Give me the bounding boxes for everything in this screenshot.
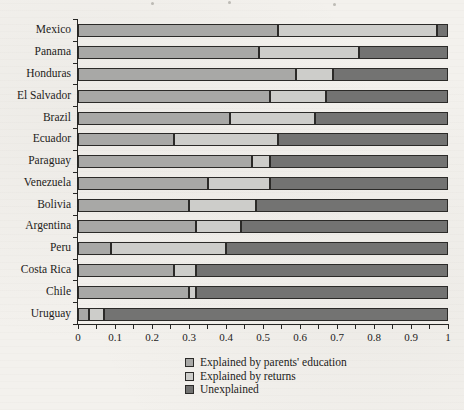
y-axis-tick: [73, 63, 78, 64]
bar-row: [78, 46, 448, 59]
x-axis-tick: [78, 325, 79, 329]
bar-segment-unexplained: [333, 68, 448, 81]
bar-segment-parents-education: [78, 199, 189, 212]
y-axis-tick: [73, 280, 78, 281]
x-axis-tick-label: 0.5: [256, 331, 270, 344]
x-axis-tick: [96, 325, 97, 329]
bar-segment-returns: [89, 308, 104, 321]
x-axis-tick: [300, 325, 301, 329]
category-label: Bolivia: [0, 198, 71, 211]
bar-segment-returns: [174, 133, 278, 146]
x-axis-tick: [115, 325, 116, 329]
bar-segment-returns: [196, 220, 240, 233]
bar-segment-parents-education: [78, 90, 270, 103]
y-axis-tick: [73, 302, 78, 303]
bar-segment-parents-education: [78, 68, 296, 81]
x-axis-tick: [392, 325, 393, 329]
x-axis-tick: [226, 325, 227, 329]
x-axis-tick-label: 1: [445, 331, 451, 344]
bar-segment-returns: [189, 286, 196, 299]
x-axis-tick: [374, 325, 375, 329]
bar-segment-returns: [174, 264, 196, 277]
x-axis-tick: [411, 325, 412, 329]
x-axis-tick-label: 0.9: [404, 331, 418, 344]
x-axis-tick: [337, 325, 338, 329]
legend-item-parents-education: Explained by parents' education: [185, 356, 347, 370]
category-label: Honduras: [0, 67, 71, 80]
bar-segment-unexplained: [241, 220, 448, 233]
stacked-bar-chart: MexicoPanamaHondurasEl SalvadorBrazilEcu…: [0, 0, 464, 410]
legend-swatch-returns: [185, 372, 194, 381]
bar-segment-unexplained: [270, 177, 448, 190]
bar-segment-returns: [252, 155, 271, 168]
y-axis-tick: [73, 193, 78, 194]
bar-segment-parents-education: [78, 220, 196, 233]
x-axis-tick-label: 0.2: [145, 331, 159, 344]
bar-row: [78, 308, 448, 321]
bar-segment-returns: [189, 199, 256, 212]
bar-segment-parents-education: [78, 242, 111, 255]
legend-label-returns: Explained by returns: [200, 370, 296, 383]
category-label: Uruguay: [0, 307, 71, 320]
category-label: Chile: [0, 285, 71, 298]
bar-row: [78, 68, 448, 81]
bar-segment-returns: [296, 68, 333, 81]
y-axis-tick: [73, 41, 78, 42]
bar-segment-parents-education: [78, 286, 189, 299]
y-axis-tick: [73, 259, 78, 260]
bar-segment-returns: [270, 90, 326, 103]
bar-segment-parents-education: [78, 308, 89, 321]
bar-segment-returns: [230, 112, 315, 125]
legend-item-returns: Explained by returns: [185, 370, 347, 384]
bar-row: [78, 199, 448, 212]
bar-segment-unexplained: [104, 308, 448, 321]
legend-item-unexplained: Unexplained: [185, 383, 347, 397]
bar-segment-unexplained: [256, 199, 448, 212]
category-label: Venezuela: [0, 176, 71, 189]
bar-segment-returns: [111, 242, 226, 255]
bar-row: [78, 286, 448, 299]
category-label: Peru: [0, 241, 71, 254]
x-axis-tick-label: 0.4: [219, 331, 233, 344]
bar-segment-returns: [278, 24, 437, 37]
y-axis-tick: [73, 19, 78, 20]
bar-row: [78, 177, 448, 190]
legend-label-unexplained: Unexplained: [200, 383, 259, 396]
x-axis-tick: [170, 325, 171, 329]
x-axis-tick: [448, 325, 449, 329]
category-label: El Salvador: [0, 89, 71, 102]
legend: Explained by parents' education Explaine…: [185, 356, 347, 397]
bar-segment-parents-education: [78, 133, 174, 146]
bar-row: [78, 24, 448, 37]
bar-segment-unexplained: [196, 286, 448, 299]
bar-segment-parents-education: [78, 112, 230, 125]
bar-segment-unexplained: [278, 133, 448, 146]
x-axis-tick: [263, 325, 264, 329]
bar-row: [78, 264, 448, 277]
bar-segment-parents-education: [78, 46, 259, 59]
legend-swatch-unexplained: [185, 385, 194, 394]
x-axis-tick: [429, 325, 430, 329]
x-axis-tick: [207, 325, 208, 329]
x-axis-tick: [318, 325, 319, 329]
category-label: Costa Rica: [0, 263, 71, 276]
bar-segment-returns: [259, 46, 359, 59]
x-axis-tick: [189, 325, 190, 329]
y-axis-tick: [73, 150, 78, 151]
bar-segment-unexplained: [196, 264, 448, 277]
category-label: Brazil: [0, 111, 71, 124]
x-axis-tick-label: 0.3: [182, 331, 196, 344]
category-label: Paraguay: [0, 154, 71, 167]
bar-segment-returns: [208, 177, 271, 190]
bar-segment-unexplained: [437, 24, 448, 37]
bar-segment-unexplained: [326, 90, 448, 103]
category-label: Mexico: [0, 23, 71, 36]
bar-segment-unexplained: [315, 112, 448, 125]
y-axis-tick: [73, 106, 78, 107]
bar-row: [78, 90, 448, 103]
category-label: Ecuador: [0, 132, 71, 145]
bar-segment-unexplained: [359, 46, 448, 59]
y-axis-tick: [73, 215, 78, 216]
y-axis-tick: [73, 172, 78, 173]
bar-segment-parents-education: [78, 24, 278, 37]
